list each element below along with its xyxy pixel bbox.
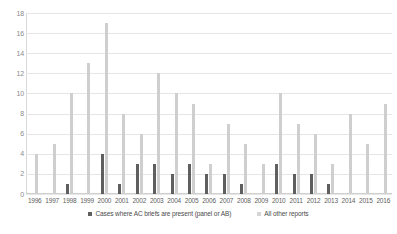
bar-group <box>96 13 113 194</box>
bar <box>153 164 156 194</box>
bar <box>53 144 56 194</box>
y-axis-tick-label: 12 <box>2 70 24 77</box>
bar-group <box>357 13 374 194</box>
bar <box>262 164 265 194</box>
x-axis: 1996199719981999200020012002200320042005… <box>26 196 392 208</box>
bar <box>331 164 334 194</box>
bar-chart: 024681012141618 199619971998199920002001… <box>0 0 397 234</box>
bar-group <box>200 13 217 194</box>
bar <box>275 164 278 194</box>
legend-swatch-icon <box>88 212 92 216</box>
legend-item[interactable]: Cases where AC briefs are present (panel… <box>88 210 231 218</box>
plot-area <box>26 13 392 194</box>
bar-group <box>61 13 78 194</box>
bar <box>118 184 121 194</box>
legend-item[interactable]: All other reports <box>257 210 308 218</box>
bar-group <box>26 13 43 194</box>
y-axis-tick-label: 16 <box>2 30 24 37</box>
bar <box>136 164 139 194</box>
y-axis-tick-label: 10 <box>2 90 24 97</box>
bar-group <box>305 13 322 194</box>
bar-group <box>113 13 130 194</box>
legend-label: Cases where AC briefs are present (panel… <box>95 210 231 218</box>
bar <box>105 23 108 194</box>
y-axis-tick-label: 14 <box>2 50 24 57</box>
bar <box>327 184 330 194</box>
bar <box>366 144 369 194</box>
bar-group <box>131 13 148 194</box>
bar <box>66 184 69 194</box>
y-axis: 024681012141618 <box>0 0 24 234</box>
bar-group <box>270 13 287 194</box>
bar-group <box>183 13 200 194</box>
bar <box>205 174 208 194</box>
bar <box>157 73 160 194</box>
bar <box>349 114 352 194</box>
y-axis-tick-label: 4 <box>2 150 24 157</box>
bar <box>101 154 104 194</box>
bar-group <box>165 13 182 194</box>
bar-group <box>322 13 339 194</box>
x-axis-tick-label: 2016 <box>373 196 394 205</box>
bar <box>87 63 90 194</box>
bar <box>223 174 226 194</box>
bar <box>384 104 387 195</box>
bar <box>310 174 313 194</box>
y-axis-tick-label: 0 <box>2 191 24 198</box>
bar <box>279 93 282 194</box>
bar <box>175 93 178 194</box>
y-axis-tick-label: 8 <box>2 110 24 117</box>
y-axis-tick-label: 18 <box>2 10 24 17</box>
bar-group <box>78 13 95 194</box>
bar-group <box>235 13 252 194</box>
bar <box>297 124 300 194</box>
bar <box>70 93 73 194</box>
legend-swatch-icon <box>257 212 261 216</box>
legend-label: All other reports <box>264 210 308 218</box>
bar-group <box>253 13 270 194</box>
bar <box>192 104 195 195</box>
bar <box>122 114 125 194</box>
bar-group <box>218 13 235 194</box>
bar-group <box>375 13 392 194</box>
bar <box>188 164 191 194</box>
y-axis-tick-label: 6 <box>2 130 24 137</box>
gridline <box>26 194 392 195</box>
bar <box>35 154 38 194</box>
bar-group <box>340 13 357 194</box>
bar <box>293 174 296 194</box>
bar-group <box>148 13 165 194</box>
bar <box>314 134 317 194</box>
chart-legend: Cases where AC briefs are present (panel… <box>0 210 397 218</box>
bar-group <box>287 13 304 194</box>
bar <box>171 174 174 194</box>
bar <box>209 164 212 194</box>
bar <box>140 134 143 194</box>
bar-group <box>43 13 60 194</box>
bar <box>240 184 243 194</box>
bar <box>227 124 230 194</box>
bar <box>244 144 247 194</box>
y-axis-tick-label: 2 <box>2 170 24 177</box>
